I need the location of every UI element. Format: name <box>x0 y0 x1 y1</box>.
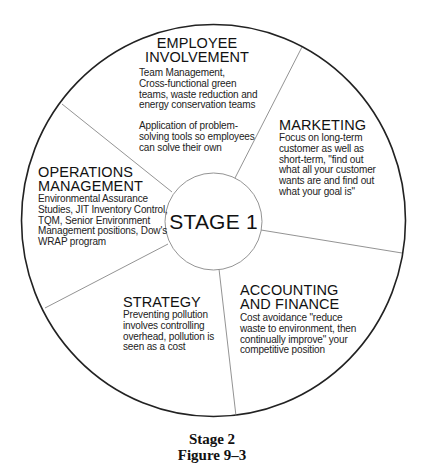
body-line: WRAP program <box>38 237 168 248</box>
center-stage-label: STAGE 1 <box>165 173 262 270</box>
body-line: what your goal is" <box>279 187 376 198</box>
heading-line: MANAGEMENT <box>38 179 168 193</box>
heading-line: EMPLOYEE <box>139 36 255 50</box>
body-line: Studies, JIT Inventory Control, <box>38 205 168 216</box>
segment-heading: MARKETING <box>279 118 376 132</box>
body-line: can solve their own <box>139 143 257 154</box>
segment-operations-management: OPERATIONS MANAGEMENT Environmental Assu… <box>38 165 168 248</box>
segment-employee-involvement: EMPLOYEE INVOLVEMENT Team Management, Cr… <box>139 36 257 154</box>
heading-line: INVOLVEMENT <box>139 50 255 64</box>
body-line: Cross-functional green <box>139 79 257 90</box>
segment-heading: ACCOUNTING AND FINANCE <box>240 283 356 311</box>
segment-heading: EMPLOYEE INVOLVEMENT <box>139 36 255 64</box>
heading-line: MARKETING <box>279 118 376 132</box>
segment-body: Environmental Assurance Studies, JIT Inv… <box>38 194 168 248</box>
heading-line: STRATEGY <box>123 295 214 309</box>
segment-heading: OPERATIONS MANAGEMENT <box>38 165 168 193</box>
heading-line: ACCOUNTING <box>240 283 356 297</box>
body-line: customer as well as <box>279 144 376 155</box>
body-line: involves controlling <box>123 321 214 332</box>
caption-stage: Stage 2 <box>0 431 424 447</box>
segment-body: Preventing pollution involves controllin… <box>123 310 214 353</box>
segment-strategy: STRATEGY Preventing pollution involves c… <box>123 295 214 353</box>
body-line: competitive position <box>240 345 356 356</box>
figure-caption: Stage 2 Figure 9–3 <box>0 431 424 463</box>
segment-heading: STRATEGY <box>123 295 214 309</box>
spoke-right <box>261 230 402 253</box>
body-line: waste to environment, then <box>240 324 356 335</box>
caption-figure-number: Figure 9–3 <box>0 447 424 463</box>
spoke-bottom <box>219 269 236 416</box>
segment-body: Cost avoidance "reduce waste to environm… <box>240 313 356 356</box>
segment-body: Team Management, Cross-functional green … <box>139 68 257 154</box>
body-line: energy conservation teams <box>139 100 257 111</box>
body-line: seen as a cost <box>123 342 214 353</box>
segment-body: Focus on long-term customer as well as s… <box>279 133 376 198</box>
heading-line: AND FINANCE <box>240 297 356 311</box>
segment-accounting-and-finance: ACCOUNTING AND FINANCE Cost avoidance "r… <box>240 283 356 356</box>
segment-marketing: MARKETING Focus on long-term customer as… <box>279 118 376 198</box>
heading-line: OPERATIONS <box>38 165 168 179</box>
